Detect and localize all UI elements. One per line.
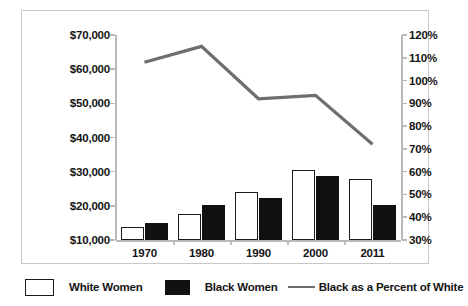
left-axis-tick — [110, 34, 115, 36]
legend-label-white-women: White Women — [69, 281, 143, 293]
right-axis-tick-label: 50% — [409, 188, 431, 200]
white-square-swatch — [25, 279, 54, 296]
right-axis-tick-label: 100% — [409, 75, 438, 87]
right-axis-tick — [402, 80, 407, 82]
bar-white-1990 — [235, 192, 259, 240]
right-axis-tick — [402, 57, 407, 59]
right-axis-tick-label: 70% — [409, 143, 431, 155]
right-axis-tick — [402, 216, 407, 218]
x-axis-label-2011: 2011 — [360, 247, 384, 259]
right-axis-tick — [402, 125, 407, 127]
right-axis-tick-label: 40% — [409, 211, 431, 223]
right-axis-tick — [402, 171, 407, 173]
left-axis-tick-label: $60,000 — [32, 63, 110, 75]
left-axis-tick — [110, 68, 115, 70]
right-axis-tick — [402, 239, 407, 241]
bar-white-2000 — [292, 170, 316, 240]
right-axis-tick-labels: 30%40%50%60%70%80%90%100%110%120% — [409, 11, 468, 265]
right-axis-tick-label: 80% — [409, 120, 431, 132]
right-axis-tick — [402, 103, 407, 105]
bar-black-1970 — [145, 223, 169, 240]
legend-item-white-women: White Women — [25, 279, 143, 296]
right-axis-tick — [402, 148, 407, 150]
chart-title — [0, 0, 450, 9]
right-axis-tick-label: 120% — [409, 29, 438, 41]
right-axis-tick-label: 30% — [409, 234, 431, 246]
x-axis-label-2000: 2000 — [303, 247, 328, 259]
legend-item-black-women: Black Women — [165, 280, 278, 295]
left-axis-tick — [110, 171, 115, 173]
bar-black-2011 — [373, 205, 397, 240]
right-axis-tick — [402, 34, 407, 36]
left-axis-tick-label: $70,000 — [32, 29, 110, 41]
right-axis-tick-label: 60% — [409, 166, 431, 178]
category-axis — [116, 240, 401, 242]
left-axis-tick-labels: $10,000$20,000$30,000$40,000$50,000$60,0… — [30, 11, 110, 265]
legend-label-black-women: Black Women — [205, 281, 278, 293]
bar-black-1980 — [202, 205, 226, 240]
x-axis-label-1970: 1970 — [132, 247, 157, 259]
line-swatch — [288, 286, 315, 288]
legend-item-percent-line: Black as a Percent of White — [288, 281, 464, 293]
bar-black-2000 — [316, 176, 340, 240]
chart-legend: White Women Black Women Black as a Perce… — [0, 270, 450, 304]
left-axis-tick-label: $30,000 — [32, 166, 110, 178]
left-axis-tick — [110, 137, 115, 139]
right-axis-tick — [402, 194, 407, 196]
bar-white-2011 — [349, 179, 373, 241]
right-axis-tick-label: 90% — [409, 97, 431, 109]
left-axis-tick — [110, 205, 115, 207]
left-axis-tick-label: $10,000 — [32, 234, 110, 246]
bar-black-1990 — [259, 198, 283, 240]
bar-white-1970 — [121, 227, 145, 240]
left-axis-tick — [110, 103, 115, 105]
bar-white-1980 — [178, 214, 202, 240]
left-axis-tick-label: $40,000 — [32, 132, 110, 144]
right-value-axis — [401, 35, 403, 240]
black-square-swatch — [165, 280, 190, 295]
legend-label-percent-line: Black as a Percent of White — [319, 281, 464, 293]
right-axis-tick-label: 110% — [409, 52, 437, 64]
plot-frame: $10,000$20,000$30,000$40,000$50,000$60,0… — [21, 10, 429, 264]
x-axis-label-1980: 1980 — [189, 247, 214, 259]
left-axis-tick-label: $50,000 — [32, 97, 110, 109]
left-axis-tick-label: $20,000 — [32, 200, 110, 212]
x-axis-label-1990: 1990 — [246, 247, 271, 259]
left-axis-tick — [110, 239, 115, 241]
